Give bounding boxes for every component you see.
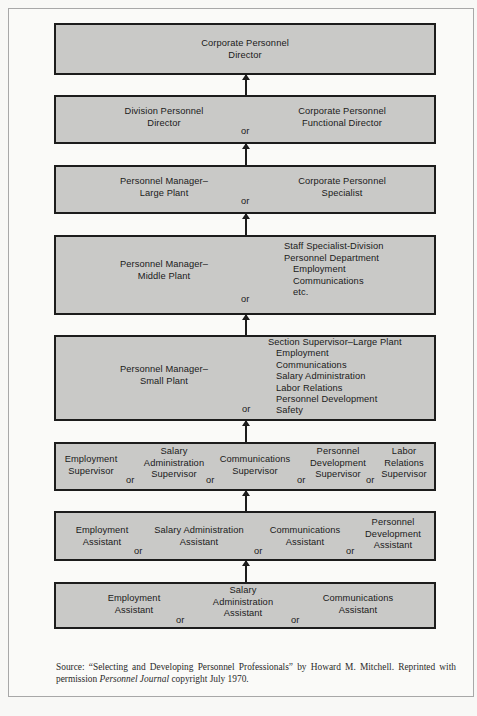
label-line: Specialist bbox=[282, 188, 402, 200]
label-line: Administration bbox=[198, 597, 288, 609]
level-2-box: Division Personnel Director or Corporate… bbox=[54, 95, 436, 144]
level-8-box: Employment Assistant or Salary Administr… bbox=[54, 582, 436, 629]
label-line: Supervisor bbox=[214, 466, 296, 478]
sub-item: Communications bbox=[284, 276, 383, 288]
label-line: Functional Director bbox=[282, 118, 402, 130]
label-line: Director bbox=[104, 118, 224, 130]
corporate-personnel-specialist: Corporate Personnel Specialist bbox=[282, 176, 402, 199]
label-line: Personnel bbox=[358, 517, 428, 529]
label-line: Labor bbox=[376, 446, 432, 458]
label-line: Corporate Personnel bbox=[282, 106, 402, 118]
label-line: Supervisor bbox=[136, 469, 212, 481]
sub-item: Communications bbox=[268, 360, 402, 371]
sub-item: etc. bbox=[284, 287, 383, 299]
label-line: Employment bbox=[59, 454, 123, 466]
or-connector: or bbox=[126, 475, 134, 486]
label-line: Assistant bbox=[86, 605, 182, 617]
employment-assistant: Employment Assistant bbox=[86, 593, 182, 616]
label-line: Assistant bbox=[144, 537, 254, 549]
label-line: Corporate Personnel bbox=[56, 38, 434, 50]
label-line: Personnel Manager– bbox=[104, 364, 224, 376]
arrow-up-icon bbox=[245, 214, 247, 235]
or-connector: or bbox=[134, 546, 142, 557]
source-suffix: copyright July 1970. bbox=[169, 674, 249, 684]
or-connector: or bbox=[291, 615, 299, 626]
level-4-box: Personnel Manager– Middle Plant or Staff… bbox=[54, 235, 436, 315]
label-line: Large Plant bbox=[104, 188, 224, 200]
level-1-box: Corporate Personnel Director bbox=[54, 23, 436, 75]
level-3-box: Personnel Manager– Large Plant or Corpor… bbox=[54, 165, 436, 214]
label-line: Division Personnel bbox=[104, 106, 224, 118]
employment-supervisor: Employment Supervisor bbox=[59, 454, 123, 477]
source-citation: Source: “Selecting and Developing Person… bbox=[56, 661, 456, 686]
sub-item: Personnel Development bbox=[268, 394, 402, 405]
or-connector: or bbox=[241, 126, 249, 137]
personnel-development-supervisor: Personnel Development Supervisor bbox=[304, 446, 372, 481]
label-line: Communications bbox=[214, 454, 296, 466]
label-line: Assistant bbox=[358, 540, 428, 552]
sub-item: Salary Administration bbox=[268, 371, 402, 382]
label-line: Supervisor bbox=[376, 469, 432, 481]
section-supervisor-large-plant: Section Supervisor–Large Plant Employmen… bbox=[268, 337, 402, 417]
journal-name: Personnel Journal bbox=[100, 674, 170, 684]
or-connector: or bbox=[241, 196, 249, 207]
label-line: Assistant bbox=[198, 608, 288, 620]
label-line: Personnel Department bbox=[284, 253, 383, 265]
level-5-box: Personnel Manager– Small Plant or Sectio… bbox=[54, 335, 436, 421]
label-line: Administration bbox=[136, 458, 212, 470]
label-line: Middle Plant bbox=[104, 271, 224, 283]
communications-supervisor: Communications Supervisor bbox=[214, 454, 296, 477]
label-line: Director bbox=[56, 50, 434, 62]
label-line: Salary Administration bbox=[144, 525, 254, 537]
arrow-up-icon bbox=[245, 421, 247, 442]
salary-administration-assistant: Salary Administration Assistant bbox=[144, 525, 254, 548]
label-line: Section Supervisor–Large Plant bbox=[268, 337, 402, 348]
label-line: Personnel Manager– bbox=[104, 259, 224, 271]
label-line: Employment bbox=[86, 593, 182, 605]
label-line: Small Plant bbox=[104, 376, 224, 388]
label-line: Relations bbox=[376, 458, 432, 470]
label-line: Salary bbox=[198, 585, 288, 597]
label-line: Supervisor bbox=[304, 469, 372, 481]
personnel-manager-small-plant: Personnel Manager– Small Plant bbox=[104, 364, 224, 387]
sub-item: Labor Relations bbox=[268, 383, 402, 394]
label-line: Development bbox=[358, 529, 428, 541]
personnel-manager-middle-plant: Personnel Manager– Middle Plant bbox=[104, 259, 224, 282]
label-line: Communications bbox=[310, 593, 406, 605]
label-line: Assistant bbox=[262, 537, 348, 549]
arrow-up-icon bbox=[245, 144, 247, 165]
personnel-manager-large-plant: Personnel Manager– Large Plant bbox=[104, 176, 224, 199]
corporate-personnel-director: Corporate Personnel Director bbox=[56, 38, 434, 61]
corporate-personnel-functional-director: Corporate Personnel Functional Director bbox=[282, 106, 402, 129]
division-personnel-director: Division Personnel Director bbox=[104, 106, 224, 129]
label-line: Salary bbox=[136, 446, 212, 458]
level-7-box: Employment Assistant or Salary Administr… bbox=[54, 511, 436, 561]
sub-item: Employment bbox=[268, 348, 402, 359]
personnel-development-assistant: Personnel Development Assistant bbox=[358, 517, 428, 552]
label-line: Employment bbox=[66, 525, 138, 537]
label-line: Staff Specialist-Division bbox=[284, 241, 383, 253]
label-line: Communications bbox=[262, 525, 348, 537]
or-connector: or bbox=[346, 546, 354, 557]
or-connector: or bbox=[366, 475, 374, 486]
employment-assistant: Employment Assistant bbox=[66, 525, 138, 548]
label-line: Assistant bbox=[310, 605, 406, 617]
or-connector: or bbox=[242, 404, 250, 415]
sub-item: Safety bbox=[268, 405, 402, 416]
arrow-up-icon bbox=[245, 561, 247, 582]
label-line: Supervisor bbox=[59, 466, 123, 478]
label-line: Assistant bbox=[66, 537, 138, 549]
communications-assistant: Communications Assistant bbox=[310, 593, 406, 616]
label-line: Development bbox=[304, 458, 372, 470]
label-line: Personnel bbox=[304, 446, 372, 458]
labor-relations-supervisor: Labor Relations Supervisor bbox=[376, 446, 432, 481]
sub-item: Employment bbox=[284, 264, 383, 276]
communications-assistant: Communications Assistant bbox=[262, 525, 348, 548]
or-connector: or bbox=[241, 294, 249, 305]
arrow-up-icon bbox=[245, 315, 247, 335]
arrow-up-icon bbox=[245, 491, 247, 511]
arrow-up-icon bbox=[245, 75, 247, 95]
label-line: Corporate Personnel bbox=[282, 176, 402, 188]
level-6-box: Employment Supervisor or Salary Administ… bbox=[54, 442, 436, 491]
staff-specialist-division: Staff Specialist-Division Personnel Depa… bbox=[284, 241, 383, 299]
